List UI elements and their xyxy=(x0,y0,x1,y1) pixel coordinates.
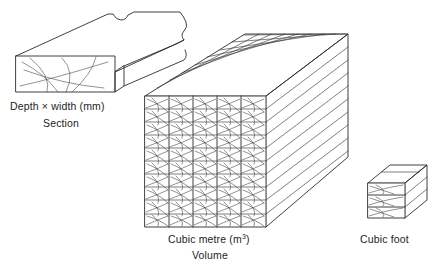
cubic-metre-label-close: ) xyxy=(246,233,250,245)
cubic-foot-block xyxy=(368,165,427,218)
cube-top-face-lines xyxy=(157,34,346,88)
diagram-canvas: Depth × width (mm) Section Cubic metre (… xyxy=(0,0,446,277)
section-lower-edge-2 xyxy=(124,50,186,86)
cubic-metre-label: Cubic metre (m3) xyxy=(168,233,250,245)
cubicfoot-top-face xyxy=(368,165,427,183)
section-piece xyxy=(16,12,187,92)
section-break-edge xyxy=(176,40,184,44)
section-end-face-fill xyxy=(16,56,115,92)
section-name-label: Section xyxy=(43,117,79,129)
cubic-metre-label-main: Cubic metre (m xyxy=(168,233,242,245)
cube-top-face xyxy=(145,34,348,96)
cube-right-face xyxy=(266,34,348,227)
cube-right-face-lines xyxy=(266,47,348,214)
section-lower-edge xyxy=(124,44,176,66)
cubic-metre-stack xyxy=(145,34,348,227)
timber-measurement-diagram: Depth × width (mm) Section Cubic metre (… xyxy=(0,0,446,277)
cubic-metre-label-group: Cubic metre (m3) xyxy=(168,233,250,245)
volume-name-label: Volume xyxy=(192,249,228,261)
cubic-foot-label: Cubic foot xyxy=(360,233,409,245)
section-dimension-label: Depth × width (mm) xyxy=(10,100,105,112)
